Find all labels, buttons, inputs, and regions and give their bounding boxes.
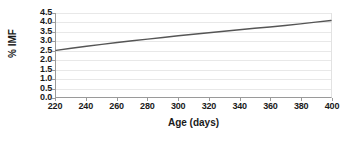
x-tick-label: 400 xyxy=(325,101,339,111)
imf-vs-age-line-chart: % IMF 0.00.51.01.52.02.53.03.54.04.5 220… xyxy=(0,0,351,145)
y-tick-label: 0.5 xyxy=(26,84,52,93)
x-tick-label: 360 xyxy=(263,101,277,111)
x-tick-label: 240 xyxy=(79,101,93,111)
x-axis-tick-labels: 220240260280300320340360380400 xyxy=(55,101,332,115)
x-tick-label: 300 xyxy=(171,101,185,111)
y-tick-label: 3.0 xyxy=(26,36,52,45)
x-tick-label: 380 xyxy=(294,101,308,111)
x-axis-title: Age (days) xyxy=(55,117,332,128)
y-axis-tick-labels: 0.00.51.01.52.02.53.03.54.04.5 xyxy=(26,13,52,98)
y-tick-label: 1.5 xyxy=(26,65,52,74)
x-tick-label: 340 xyxy=(232,101,246,111)
y-tick-label: 2.0 xyxy=(26,55,52,64)
y-tick-label: 4.0 xyxy=(26,17,52,26)
y-tick-label: 2.5 xyxy=(26,46,52,55)
x-tick-label: 320 xyxy=(202,101,216,111)
y-axis-title: % IMF xyxy=(7,4,18,84)
y-tick-label: 4.5 xyxy=(26,8,52,17)
x-tick-label: 280 xyxy=(140,101,154,111)
x-tick-label: 260 xyxy=(109,101,123,111)
plot-area xyxy=(55,13,332,98)
y-tick-label: 1.0 xyxy=(26,74,52,83)
series-line-imf xyxy=(56,13,331,97)
y-tick-label: 3.5 xyxy=(26,27,52,36)
x-tick-label: 220 xyxy=(48,101,62,111)
